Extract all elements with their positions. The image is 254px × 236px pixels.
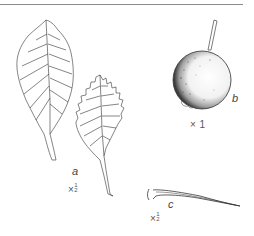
thorn-c (148, 189, 241, 206)
leaf-a-left (17, 20, 73, 160)
label-a: a (72, 165, 78, 177)
scale-c: ×12 (150, 212, 160, 224)
scale-a: ×12 (68, 183, 78, 195)
label-c: c (168, 198, 174, 210)
leaf-a-right (76, 75, 124, 196)
fruit-b (173, 20, 231, 109)
label-b: b (232, 92, 238, 104)
scale-b: × 1 (190, 119, 206, 130)
botanical-illustration (0, 0, 254, 236)
